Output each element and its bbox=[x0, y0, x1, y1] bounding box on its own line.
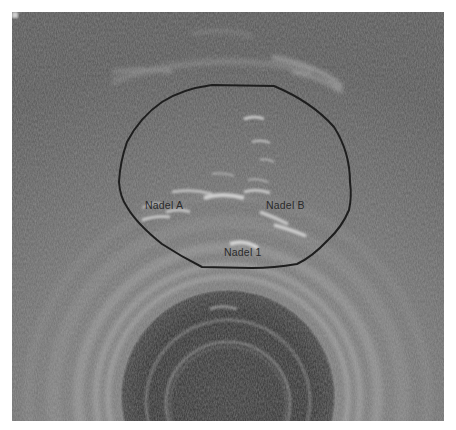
label-nadel-1: Nadel 1 bbox=[224, 246, 262, 258]
ultrasound-image: Nadel A Nadel B Nadel 1 bbox=[12, 12, 444, 421]
label-nadel-b: Nadel B bbox=[266, 199, 305, 211]
speckle-texture bbox=[12, 12, 444, 421]
ultrasound-canvas: Nadel A Nadel B Nadel 1 bbox=[12, 12, 444, 421]
corner-marker bbox=[12, 12, 18, 18]
label-nadel-a: Nadel A bbox=[145, 199, 183, 211]
